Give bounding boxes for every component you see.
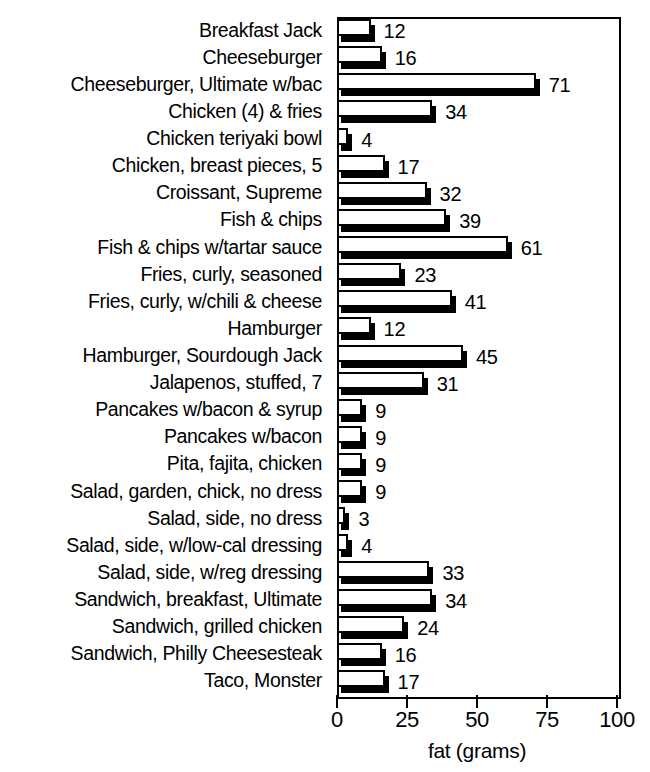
- x-axis-tick-label: 0: [331, 709, 343, 731]
- y-axis-label: Chicken, breast pieces, 5: [0, 156, 322, 176]
- bar-face: [337, 46, 382, 63]
- bar-row: 31: [337, 372, 617, 395]
- y-axis-category-labels: Breakfast JackCheeseburgerCheeseburger, …: [0, 17, 330, 695]
- bar-row: 45: [337, 345, 617, 368]
- bar-face: [337, 100, 432, 117]
- bar-face: [337, 453, 362, 470]
- y-axis-label: Sandwich, Philly Cheesesteak: [0, 644, 322, 664]
- bar-value-label: 9: [375, 482, 386, 502]
- bar-face: [337, 399, 362, 416]
- bar-row: 32: [337, 182, 617, 205]
- bar-row: 4: [337, 534, 617, 557]
- bar-value-label: 17: [398, 157, 420, 177]
- bar-face: [337, 480, 362, 497]
- bar-value-label: 16: [395, 645, 417, 665]
- bar-value-label: 24: [417, 618, 439, 638]
- y-axis-label: Fish & chips w/tartar sauce: [0, 238, 322, 258]
- bar-row: 41: [337, 290, 617, 313]
- bar-face: [337, 616, 404, 633]
- y-axis-label: Fries, curly, w/chili & cheese: [0, 292, 322, 312]
- bar-row: 4: [337, 128, 617, 151]
- y-axis-label: Salad, side, w/low-cal dressing: [0, 536, 322, 556]
- bar-value-label: 12: [384, 319, 406, 339]
- bar-face: [337, 263, 401, 280]
- bars-layer: 1216713441732396123411245319999343334241…: [337, 17, 617, 695]
- bar-face: [337, 155, 385, 172]
- bar-value-label: 61: [521, 238, 543, 258]
- bar-chart: fat content in fast food Breakfast JackC…: [0, 0, 650, 772]
- bar-face: [337, 182, 427, 199]
- bar-value-label: 39: [459, 211, 481, 231]
- bar-value-label: 23: [414, 265, 436, 285]
- bar-face: [337, 290, 452, 307]
- bar-row: 71: [337, 73, 617, 96]
- bar-row: 34: [337, 589, 617, 612]
- y-axis-label: Cheeseburger: [0, 48, 322, 68]
- bar-face: [337, 643, 382, 660]
- y-axis-label: Hamburger, Sourdough Jack: [0, 346, 322, 366]
- bar-value-label: 71: [549, 75, 571, 95]
- bar-row: 33: [337, 561, 617, 584]
- y-axis-label: Taco, Monster: [0, 671, 322, 691]
- bar-row: 24: [337, 616, 617, 639]
- bar-value-label: 3: [358, 509, 369, 529]
- bar-face: [337, 345, 463, 362]
- bar-face: [337, 236, 508, 253]
- bar-face: [337, 589, 432, 606]
- bar-row: 23: [337, 263, 617, 286]
- bar-face: [337, 128, 348, 145]
- x-axis-tick-label: 50: [465, 709, 489, 731]
- y-axis-label: Fries, curly, seasoned: [0, 265, 322, 285]
- y-axis-label: Chicken (4) & fries: [0, 102, 322, 122]
- bar-face: [337, 317, 371, 334]
- bar-face: [337, 372, 424, 389]
- bar-row: 39: [337, 209, 617, 232]
- y-axis-label: Salad, garden, chick, no dress: [0, 482, 322, 502]
- x-axis-title: fat (grams): [337, 740, 617, 761]
- bar-row: 34: [337, 100, 617, 123]
- y-axis-label: Sandwich, breakfast, Ultimate: [0, 590, 322, 610]
- bar-face: [337, 507, 345, 524]
- y-axis-label: Breakfast Jack: [0, 21, 322, 41]
- bar-row: 61: [337, 236, 617, 259]
- bar-value-label: 9: [375, 455, 386, 475]
- bar-row: 3: [337, 507, 617, 530]
- y-axis-label: Fish & chips: [0, 210, 322, 230]
- y-axis-label: Sandwich, grilled chicken: [0, 617, 322, 637]
- bar-value-label: 34: [445, 102, 467, 122]
- x-axis-tick-label: 75: [535, 709, 559, 731]
- bar-row: 17: [337, 670, 617, 693]
- y-axis-label: Jalapenos, stuffed, 7: [0, 373, 322, 393]
- bar-value-label: 41: [465, 292, 487, 312]
- bar-face: [337, 426, 362, 443]
- bar-value-label: 33: [442, 563, 464, 583]
- bar-value-label: 9: [375, 401, 386, 421]
- bar-face: [337, 534, 348, 551]
- bar-value-label: 45: [476, 347, 498, 367]
- bar-row: 9: [337, 453, 617, 476]
- y-axis-label: Pancakes w/bacon & syrup: [0, 400, 322, 420]
- bar-row: 9: [337, 480, 617, 503]
- bar-value-label: 32: [440, 184, 462, 204]
- bar-row: 16: [337, 643, 617, 666]
- bar-value-label: 16: [395, 48, 417, 68]
- y-axis-label: Pita, fajita, chicken: [0, 454, 322, 474]
- y-axis-label: Hamburger: [0, 319, 322, 339]
- bar-face: [337, 19, 371, 36]
- y-axis-label: Pancakes w/bacon: [0, 427, 322, 447]
- bar-value-label: 31: [437, 374, 459, 394]
- bar-value-label: 9: [375, 428, 386, 448]
- bar-row: 12: [337, 19, 617, 42]
- bar-row: 9: [337, 426, 617, 449]
- x-axis-tick-label: 100: [599, 709, 635, 731]
- bar-row: 12: [337, 317, 617, 340]
- bar-row: 16: [337, 46, 617, 69]
- y-axis-label: Salad, side, w/reg dressing: [0, 563, 322, 583]
- bar-face: [337, 209, 446, 226]
- bar-row: 9: [337, 399, 617, 422]
- bar-face: [337, 670, 385, 687]
- y-axis-label: Salad, side, no dress: [0, 509, 322, 529]
- bar-value-label: 4: [361, 536, 372, 556]
- bar-value-label: 12: [384, 21, 406, 41]
- x-axis-tick-label: 25: [395, 709, 419, 731]
